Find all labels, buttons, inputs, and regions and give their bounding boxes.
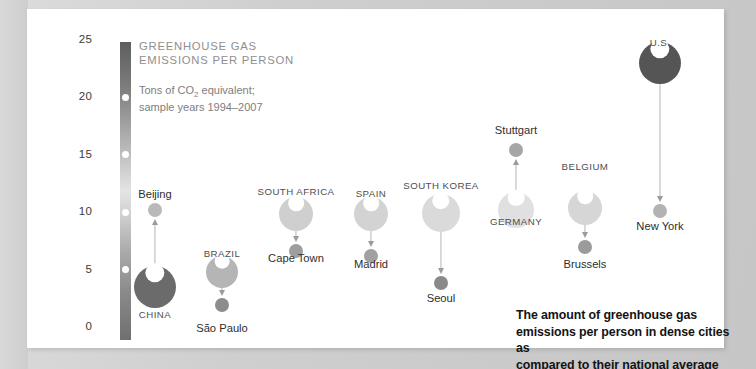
country-circle-notch: [577, 188, 593, 204]
axis-tick-dot-10: [122, 209, 129, 216]
arrow-head-down: [293, 236, 299, 242]
city-label: Cape Town: [268, 252, 324, 264]
country-label: SOUTH KOREA: [403, 180, 478, 191]
city-label: Madrid: [354, 258, 388, 270]
city-dot[interactable]: [578, 240, 592, 254]
chart-subtitle: Tons of CO2 equivalent;sample years 1994…: [139, 70, 263, 115]
infographic-page: 0510152025 GREENHOUSE GAS EMISSIONS PER …: [0, 0, 756, 369]
country-circle-notch: [508, 190, 525, 207]
city-label: Beijing: [138, 188, 172, 200]
city-label: Seoul: [427, 292, 456, 304]
chart-subtitle-line1: Tons of CO: [139, 84, 194, 96]
city-dot[interactable]: [148, 203, 162, 217]
country-label: SPAIN: [356, 188, 387, 199]
axis-tick-dot-20: [122, 94, 129, 101]
chart-subtitle-line2: sample years 1994–2007: [139, 101, 263, 113]
city-dot[interactable]: [434, 276, 448, 290]
city-label: Stuttgart: [495, 124, 537, 136]
country-label: GERMANY: [490, 216, 542, 227]
chart-title: GREENHOUSE GAS EMISSIONS PER PERSON: [139, 40, 294, 67]
axis-tick-label-25: 25: [66, 33, 92, 45]
city-dot[interactable]: [653, 204, 667, 218]
city-dot[interactable]: [215, 298, 229, 312]
axis-tick-label-20: 20: [66, 90, 92, 102]
city-dot[interactable]: [509, 143, 523, 157]
arrow-head-down: [368, 241, 374, 247]
country-label: U.S.: [650, 37, 671, 48]
chart-subtitle-line1b: equivalent;: [198, 84, 254, 96]
page-left-gutter: [0, 0, 28, 369]
country-label: BRAZIL: [204, 248, 241, 259]
arrow-head-down: [438, 268, 444, 274]
arrow-head-down: [657, 196, 663, 202]
chart-panel: 0510152025 GREENHOUSE GAS EMISSIONS PER …: [27, 9, 724, 348]
country-label: BELGIUM: [562, 161, 609, 172]
country-label: CHINA: [139, 309, 171, 320]
axis-tick-label-5: 5: [66, 263, 92, 275]
city-label: São Paulo: [196, 322, 248, 334]
axis-tick-label-10: 10: [66, 205, 92, 217]
arrow-head-up: [513, 159, 519, 165]
value-axis-gradient-bar: [120, 42, 131, 340]
arrow-head-down: [219, 290, 225, 296]
city-label: Brussels: [564, 258, 607, 270]
axis-tick-label-0: 0: [66, 320, 92, 332]
country-label: SOUTH AFRICA: [258, 186, 335, 197]
chart-caption: The amount of greenhouse gas emissions p…: [516, 307, 746, 369]
city-label: New York: [636, 220, 683, 232]
arrow-head-up: [152, 219, 158, 225]
country-circle-notch: [288, 195, 304, 211]
arrow-head-down: [582, 232, 588, 238]
axis-tick-label-15: 15: [66, 148, 92, 160]
